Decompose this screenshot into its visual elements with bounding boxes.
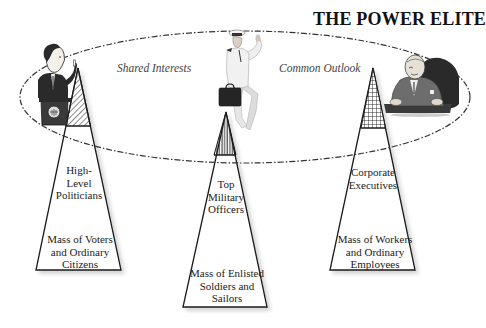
label-line: Politicians — [48, 189, 110, 202]
label-line: Mass of Enlisted — [185, 267, 269, 280]
executive-figure-icon — [384, 55, 459, 117]
label-line: and Ordinary — [334, 246, 416, 259]
label-line: Employees — [334, 258, 416, 271]
military-elite-label: Top Military Officers — [195, 178, 257, 216]
label-line: Sailors — [185, 292, 269, 305]
label-line: and Ordinary — [40, 246, 120, 259]
label-line: Level — [48, 177, 110, 190]
label-line: Mass of Workers — [334, 233, 416, 246]
label-line: Executives — [342, 179, 404, 192]
workers-mass-label: Mass of Workers and Ordinary Employees — [334, 233, 416, 271]
shared-interests-label: Shared Interests — [117, 62, 191, 74]
elite-tier-vertical-hatch — [214, 112, 236, 155]
enlisted-mass-label: Mass of Enlisted Soldiers and Sailors — [185, 267, 269, 305]
diagram-title: THE POWER ELITE — [313, 9, 486, 30]
common-outlook-label: Common Outlook — [279, 62, 360, 74]
label-line: Citizens — [40, 258, 120, 271]
label-line: Officers — [195, 203, 257, 216]
elite-tier-diagonal-hatch — [66, 68, 91, 126]
label-line: Top — [195, 178, 257, 191]
label-line: Soldiers and — [185, 280, 269, 293]
elite-tier-crosshatch — [361, 68, 386, 128]
politicians-elite-label: High- Level Politicians — [48, 164, 110, 202]
label-line: Military — [195, 191, 257, 204]
label-line: Corporate — [342, 166, 404, 179]
label-line: High- — [48, 164, 110, 177]
label-line: Mass of Voters — [40, 233, 120, 246]
corporate-elite-label: Corporate Executives — [342, 166, 404, 191]
voters-mass-label: Mass of Voters and Ordinary Citizens — [40, 233, 120, 271]
